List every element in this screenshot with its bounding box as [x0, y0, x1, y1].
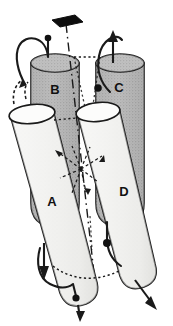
helix-a-label: A [47, 194, 57, 209]
helix-c-top-cap-texture [96, 54, 144, 72]
symmetry-center-point [80, 168, 83, 171]
helix-b-label: B [50, 82, 59, 97]
bundle-diagram: B C A D [0, 0, 173, 326]
marker-bottom-b [103, 239, 111, 247]
bottom-back-edge [90, 216, 92, 250]
marker-bottom-a [72, 294, 79, 301]
helix-c-label: C [114, 80, 124, 95]
helix-d-down-arrowhead [145, 296, 157, 310]
helix-b-top-cap-texture [31, 54, 79, 72]
marker-mid-c [94, 84, 102, 92]
four-helix-bundle-figure: B C A D [0, 0, 173, 326]
two-fold-axis-marker [52, 15, 83, 27]
helix-d-label: D [119, 184, 128, 199]
marker-top-b [45, 35, 52, 42]
